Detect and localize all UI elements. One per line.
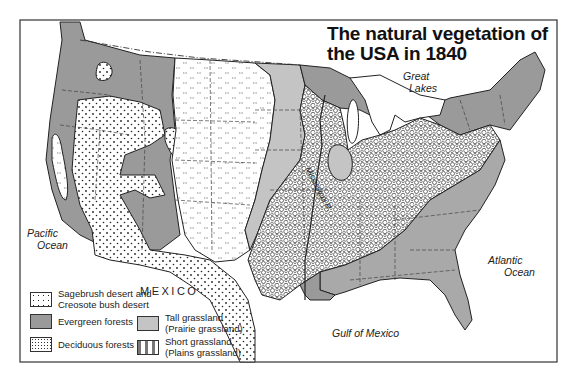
- hatch-swatch-icon: [137, 340, 159, 355]
- dark-gray-swatch-icon: [30, 314, 52, 329]
- label-gulf-of-mexico: Gulf of Mexico: [332, 327, 399, 339]
- legend-label-deciduous: Deciduous forests: [58, 339, 134, 350]
- legend-line: Sagebrush desert and: [58, 288, 151, 299]
- title-line-1: The natural vegetation of: [327, 24, 548, 44]
- legend-label-evergreen: Evergreen forests: [58, 316, 133, 327]
- lake-michigan: [347, 100, 358, 143]
- pacific-line-2: Ocean: [27, 239, 68, 251]
- legend-line: (Plains grassland): [165, 347, 241, 358]
- label-great-lakes: Great Lakes: [403, 70, 437, 94]
- region-tall-illinois: [328, 145, 352, 180]
- map-title: The natural vegetation of the USA in 184…: [327, 24, 548, 64]
- pacific-line-1: Pacific: [27, 227, 68, 239]
- legend-line: Creosote bush desert: [58, 299, 151, 310]
- atlantic-line-2: Ocean: [488, 266, 535, 278]
- circles-swatch-icon: [30, 337, 52, 352]
- legend-item-tall-grassland: Tall grassland (Prairie grassland): [137, 312, 243, 334]
- legend-line: Tall grassland: [165, 312, 243, 323]
- legend-line: Short grassland: [165, 336, 241, 347]
- dotted-swatch-icon: [30, 292, 52, 307]
- legend-item-short-grassland: Short grassland (Plains grassland): [137, 336, 241, 358]
- legend-line: (Prairie grassland): [165, 323, 243, 334]
- legend-item-evergreen: Evergreen forests: [30, 314, 133, 329]
- atlantic-line-1: Atlantic: [488, 254, 535, 266]
- label-pacific-ocean: Pacific Ocean: [27, 227, 68, 251]
- label-atlantic-ocean: Atlantic Ocean: [488, 254, 535, 278]
- title-line-2: the USA in 1840: [327, 44, 548, 64]
- legend-label-tall-grassland: Tall grassland (Prairie grassland): [165, 312, 243, 334]
- light-gray-swatch-icon: [137, 316, 159, 331]
- region-sagebrush-idaho: [96, 62, 112, 80]
- legend-label-sagebrush: Sagebrush desert and Creosote bush deser…: [58, 288, 151, 310]
- great-lakes-line-2: Lakes: [403, 82, 437, 94]
- legend-label-short-grassland: Short grassland (Plains grassland): [165, 336, 241, 358]
- great-lakes-line-1: Great: [403, 70, 437, 82]
- legend-item-deciduous: Deciduous forests: [30, 337, 134, 352]
- legend-item-sagebrush: Sagebrush desert and Creosote bush deser…: [30, 288, 151, 310]
